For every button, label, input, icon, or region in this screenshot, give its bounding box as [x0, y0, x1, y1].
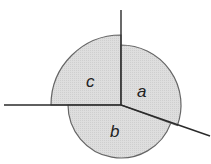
sector-diagram: a b c	[0, 0, 211, 164]
sector-c	[51, 35, 121, 105]
label-b: b	[110, 122, 119, 141]
label-a: a	[137, 82, 146, 101]
label-c: c	[86, 72, 95, 91]
